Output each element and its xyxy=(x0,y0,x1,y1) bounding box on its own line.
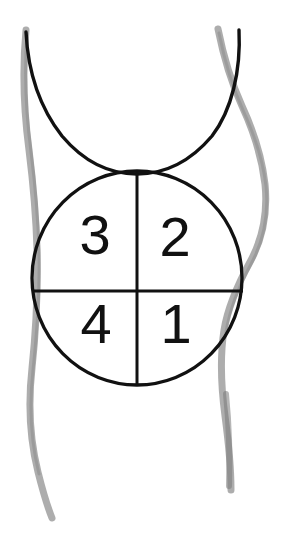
abdominal-quadrants-figure: Abdominal quadrants diagram Line drawing… xyxy=(0,0,293,557)
torso-quadrant-diagram: Abdominal quadrants diagram Line drawing… xyxy=(0,0,293,557)
costal-margin-arc xyxy=(26,30,239,174)
quadrant-label-2: 2 xyxy=(159,205,190,268)
costal-margin-group xyxy=(26,30,239,174)
quadrant-label-3: 3 xyxy=(79,203,110,266)
right-leg-inner-outline xyxy=(226,394,229,486)
quadrant-label-4: 4 xyxy=(80,292,111,355)
quadrant-label-1: 1 xyxy=(160,292,191,355)
